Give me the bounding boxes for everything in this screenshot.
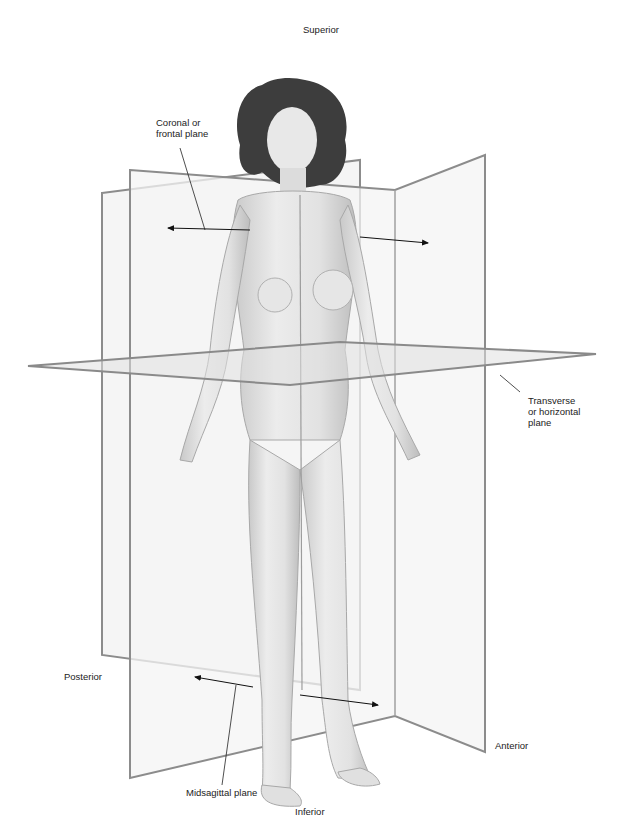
label-midsagittal-plane: Midsagittal plane bbox=[186, 787, 257, 798]
body-planes-diagram bbox=[0, 0, 619, 836]
label-coronal-plane: Coronal or frontal plane bbox=[156, 117, 208, 139]
label-inferior: Inferior bbox=[295, 806, 325, 817]
transverse-leader bbox=[500, 375, 520, 392]
label-anterior: Anterior bbox=[495, 740, 528, 751]
label-transverse-plane: Transverse or horizontal plane bbox=[528, 395, 580, 428]
label-posterior: Posterior bbox=[64, 671, 102, 682]
label-superior: Superior bbox=[303, 24, 339, 35]
